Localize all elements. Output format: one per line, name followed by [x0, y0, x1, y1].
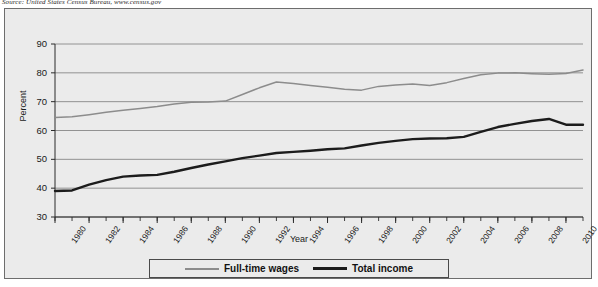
- chart-legend: Full-time wages Total income: [149, 259, 449, 278]
- legend-item-total-income: Total income: [313, 263, 413, 274]
- y-axis-tick-label: 90: [21, 38, 47, 49]
- y-axis-tick-label: 50: [21, 153, 47, 164]
- plot-area: 30405060708090 1980198219841986198819901…: [5, 9, 593, 280]
- legend-swatch-icon: [313, 267, 347, 270]
- y-axis-title: Percent: [18, 76, 28, 136]
- legend-label: Total income: [352, 263, 413, 274]
- legend-label: Full-time wages: [224, 263, 299, 274]
- source-note: Source: United States Census Bureau, www…: [2, 0, 161, 6]
- legend-item-full-time-wages: Full-time wages: [185, 263, 299, 274]
- legend-swatch-icon: [185, 268, 219, 270]
- y-axis-tick-label: 40: [21, 182, 47, 193]
- chart-figure: Source: United States Census Bureau, www…: [0, 0, 598, 287]
- chart-panel: 30405060708090 1980198219841986198819901…: [4, 8, 592, 279]
- x-axis-title: Year: [5, 234, 593, 244]
- y-axis-tick-label: 30: [21, 211, 47, 222]
